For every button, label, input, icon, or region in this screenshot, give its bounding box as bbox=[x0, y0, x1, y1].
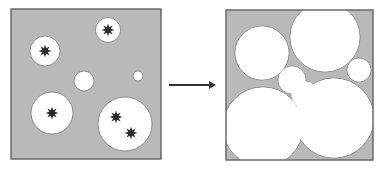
before-panel bbox=[11, 9, 161, 159]
star-icon bbox=[39, 45, 52, 58]
circle bbox=[74, 71, 94, 91]
star-icon bbox=[110, 111, 123, 124]
after-panel bbox=[223, 2, 374, 167]
diagram-canvas bbox=[0, 0, 385, 169]
circle bbox=[133, 71, 143, 81]
arrow-icon bbox=[169, 81, 216, 89]
diagram bbox=[0, 0, 385, 169]
star-icon bbox=[46, 107, 59, 120]
circle bbox=[98, 97, 152, 151]
star-icon bbox=[125, 127, 138, 140]
star-icon bbox=[102, 24, 115, 37]
